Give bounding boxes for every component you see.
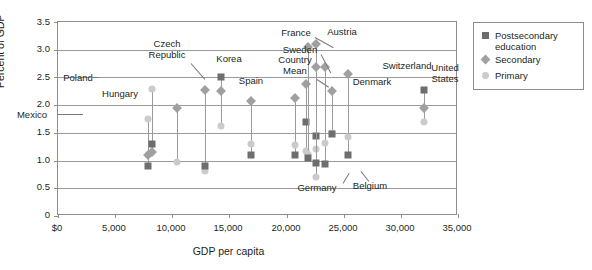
data-point-secondary[interactable]	[216, 86, 226, 96]
point-label-line: Hungary	[102, 89, 138, 100]
point-label-line: Germany	[297, 183, 336, 194]
x-tick-label: $0	[52, 222, 63, 233]
data-point-stem	[177, 108, 178, 162]
legend-item-primary[interactable]: Primary	[482, 70, 528, 81]
point-label-line: Denmark	[353, 77, 392, 88]
x-tick-mark	[172, 214, 173, 218]
point-label-spain: Spain	[239, 76, 263, 87]
point-label-line: France	[281, 28, 311, 39]
point-label-korea: Korea	[216, 54, 241, 65]
data-point-primary[interactable]	[313, 174, 320, 181]
x-tick-label: 10,000	[156, 222, 185, 233]
data-point-secondary[interactable]	[301, 79, 311, 89]
y-axis-title: Percent of GDP	[0, 14, 6, 88]
label-leader-line	[91, 77, 99, 78]
point-label-germany: Germany	[297, 183, 336, 194]
label-leader-line	[58, 114, 83, 115]
data-point-stem	[348, 74, 349, 155]
point-label-line: Mexico	[17, 110, 47, 121]
y-tick-mark	[54, 188, 58, 189]
y-tick-label: 0.5	[16, 181, 50, 192]
x-tick-label: 20,000	[271, 222, 300, 233]
square-marker-icon	[482, 32, 489, 39]
data-point-postsecondary[interactable]	[202, 163, 209, 170]
data-point-postsecondary[interactable]	[322, 161, 329, 168]
y-tick-label: 3.5	[16, 16, 50, 27]
x-tick-mark	[58, 214, 59, 218]
label-leader-line	[317, 79, 330, 88]
point-label-line: Mean	[278, 66, 311, 77]
gridline	[58, 50, 456, 51]
x-tick-label: 5,000	[102, 222, 126, 233]
point-label-line: Belgium	[353, 181, 387, 192]
point-label-czechrepublic: CzechRepublic	[149, 39, 186, 60]
legend: Postsecondary education Secondary Primar…	[473, 22, 584, 90]
data-point-stem	[205, 90, 206, 170]
x-tick-mark	[115, 214, 116, 218]
data-point-postsecondary[interactable]	[420, 86, 427, 93]
point-label-countrymean: CountryMean	[278, 55, 311, 76]
legend-item-postsecondary[interactable]: Postsecondary education	[482, 30, 558, 52]
x-axis-title: GDP per capita	[0, 245, 457, 257]
point-label-line: Austria	[327, 27, 357, 38]
gridline	[58, 188, 456, 189]
data-point-primary[interactable]	[345, 134, 352, 141]
y-tick-mark	[54, 22, 58, 23]
point-label-austria: Austria	[327, 27, 357, 38]
legend-label: Primary	[495, 70, 528, 81]
x-tick-label: 25,000	[328, 222, 357, 233]
point-label-line: Poland	[63, 73, 93, 84]
data-point-postsecondary[interactable]	[313, 160, 320, 167]
y-tick-label: 1.5	[16, 126, 50, 137]
data-point-postsecondary[interactable]	[145, 163, 152, 170]
data-point-primary[interactable]	[291, 142, 298, 149]
gridline	[58, 161, 456, 162]
point-label-line: Sweden	[283, 45, 317, 56]
y-tick-label: 0	[16, 209, 50, 220]
data-point-primary[interactable]	[148, 85, 155, 92]
point-label-line: Czech	[149, 39, 186, 50]
point-label-belgium: Belgium	[353, 181, 387, 192]
point-label-line: Spain	[239, 76, 263, 87]
data-point-primary[interactable]	[218, 123, 225, 130]
data-point-postsecondary[interactable]	[329, 130, 336, 137]
data-point-secondary[interactable]	[290, 93, 300, 103]
data-point-postsecondary[interactable]	[291, 152, 298, 159]
chart-root: Percent of GDP 3.5 3.0 2.5 2.0 1.5 1.0 0…	[0, 0, 592, 270]
point-label-poland: Poland	[63, 73, 93, 84]
x-tick-mark	[229, 214, 230, 218]
data-point-primary[interactable]	[173, 158, 180, 165]
point-label-line: Country	[278, 55, 311, 66]
data-point-postsecondary[interactable]	[305, 154, 312, 161]
point-label-line: United	[431, 63, 458, 74]
data-point-postsecondary[interactable]	[248, 152, 255, 159]
gridline	[58, 105, 456, 106]
legend-item-secondary[interactable]: Secondary	[482, 54, 540, 65]
y-tick-mark	[54, 105, 58, 106]
y-tick-label: 1.0	[16, 154, 50, 165]
data-point-stem	[325, 67, 326, 164]
data-point-postsecondary[interactable]	[345, 152, 352, 159]
y-tick-label: 2.5	[16, 71, 50, 82]
x-tick-label: 30,000	[385, 222, 414, 233]
point-label-line: Korea	[216, 54, 241, 65]
data-point-primary[interactable]	[248, 140, 255, 147]
x-tick-mark	[401, 214, 402, 218]
diamond-marker-icon	[481, 55, 491, 65]
point-label-mexico: Mexico	[17, 110, 47, 121]
data-point-primary[interactable]	[322, 139, 329, 146]
y-tick-mark	[54, 133, 58, 134]
data-point-secondary[interactable]	[327, 86, 337, 96]
point-label-france: France	[281, 28, 311, 39]
x-tick-label: 35,000	[442, 222, 471, 233]
data-point-stem	[221, 77, 222, 126]
data-point-primary[interactable]	[420, 118, 427, 125]
data-point-postsecondary[interactable]	[148, 140, 155, 147]
data-point-secondary[interactable]	[200, 85, 210, 95]
point-label-line: States	[431, 74, 458, 85]
circle-marker-icon	[482, 72, 489, 79]
data-point-postsecondary[interactable]	[218, 74, 225, 81]
point-label-line: Republic	[149, 50, 186, 61]
data-point-stem	[332, 91, 333, 134]
x-tick-mark	[287, 214, 288, 218]
